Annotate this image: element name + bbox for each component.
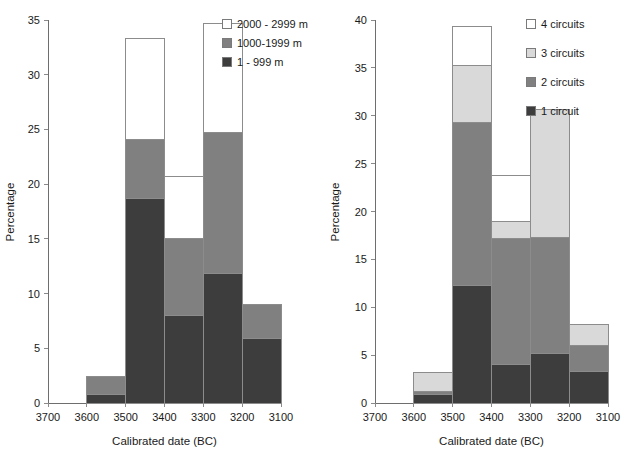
bar-segment[interactable]	[530, 353, 569, 403]
x-tick-label: 3600	[402, 411, 426, 423]
y-axis-title: Percentage	[4, 183, 16, 242]
bar-segment[interactable]	[126, 139, 165, 198]
y-tick-label: 0	[34, 397, 40, 409]
legend-label[interactable]: 3 circuits	[541, 47, 585, 59]
legend-swatch[interactable]	[526, 48, 535, 57]
legend-swatch[interactable]	[526, 77, 535, 86]
x-tick-label: 3100	[269, 411, 293, 423]
bar-segment[interactable]	[569, 346, 608, 372]
legend-label[interactable]: 1 - 999 m	[237, 56, 283, 68]
x-tick-label: 3300	[518, 411, 542, 423]
bar-segment[interactable]	[453, 122, 492, 285]
bar-segment[interactable]	[492, 238, 531, 364]
y-tick-label: 30	[28, 69, 40, 81]
bar-segment[interactable]	[569, 371, 608, 403]
y-tick-label: 25	[355, 158, 367, 170]
x-tick-label: 3700	[36, 411, 60, 423]
x-axis-title: Calibrated date (BC)	[439, 435, 544, 447]
bar-segment[interactable]	[126, 198, 165, 403]
legend-label[interactable]: 2000 - 2999 m	[237, 18, 308, 30]
x-tick-label: 3400	[152, 411, 176, 423]
y-tick-label: 40	[355, 14, 367, 26]
bar-segment[interactable]	[530, 109, 569, 237]
bar-segment[interactable]	[414, 395, 453, 403]
bar-segment[interactable]	[126, 39, 165, 140]
y-tick-label: 5	[34, 342, 40, 354]
bar-segment[interactable]	[414, 392, 453, 395]
bar-segment[interactable]	[165, 239, 204, 316]
bar-segment[interactable]	[242, 338, 281, 403]
x-tick-label: 3700	[363, 411, 387, 423]
legend-label[interactable]: 1 circuit	[541, 105, 579, 117]
legend-swatch[interactable]	[526, 106, 535, 115]
y-tick-label: 35	[355, 62, 367, 74]
bar-segment[interactable]	[203, 133, 242, 274]
y-tick-label: 35	[28, 14, 40, 26]
bar-segment[interactable]	[530, 237, 569, 353]
bar-segment[interactable]	[453, 285, 492, 403]
bar-segment[interactable]	[87, 377, 126, 395]
y-tick-label: 15	[355, 253, 367, 265]
bar-segment[interactable]	[569, 324, 608, 345]
y-axis-title: Percentage	[329, 183, 341, 242]
x-tick-label: 3300	[191, 411, 215, 423]
bar-segment[interactable]	[492, 221, 531, 238]
bar-segment[interactable]	[165, 315, 204, 403]
x-tick-label: 3100	[596, 411, 620, 423]
y-tick-label: 10	[355, 301, 367, 313]
legend-swatch[interactable]	[222, 38, 231, 47]
y-tick-label: 30	[355, 110, 367, 122]
chart-panel-left: 0510152025303537003600350034003300320031…	[0, 0, 313, 461]
y-tick-label: 20	[28, 178, 40, 190]
x-tick-label: 3200	[557, 411, 581, 423]
x-tick-label: 3500	[113, 411, 137, 423]
legend-label[interactable]: 2 circuits	[541, 76, 585, 88]
bar-segment[interactable]	[453, 65, 492, 122]
bar-segment[interactable]	[492, 175, 531, 221]
figure-container: 0510152025303537003600350034003300320031…	[0, 0, 626, 461]
y-tick-label: 15	[28, 233, 40, 245]
bar-segment[interactable]	[492, 365, 531, 403]
chart-panel-right: 0510152025303540370036003500340033003200…	[313, 0, 626, 461]
legend-label[interactable]: 1000-1999 m	[237, 37, 302, 49]
left-chart-svg: 0510152025303537003600350034003300320031…	[0, 0, 313, 461]
legend-swatch[interactable]	[526, 19, 535, 28]
x-tick-label: 3600	[75, 411, 99, 423]
y-tick-label: 10	[28, 288, 40, 300]
bar-segment[interactable]	[203, 274, 242, 403]
right-chart-svg: 0510152025303540370036003500340033003200…	[313, 0, 626, 461]
y-tick-label: 5	[361, 349, 367, 361]
x-tick-label: 3200	[230, 411, 254, 423]
bar-segment[interactable]	[165, 176, 204, 238]
legend-label[interactable]: 4 circuits	[541, 18, 585, 30]
y-tick-label: 20	[355, 206, 367, 218]
x-axis-title: Calibrated date (BC)	[112, 435, 217, 447]
bar-segment[interactable]	[87, 394, 126, 403]
y-tick-label: 25	[28, 123, 40, 135]
bar-segment[interactable]	[453, 27, 492, 65]
x-tick-label: 3400	[479, 411, 503, 423]
bar-segment[interactable]	[242, 305, 281, 339]
legend-swatch[interactable]	[222, 19, 231, 28]
x-tick-label: 3500	[440, 411, 464, 423]
y-tick-label: 0	[361, 397, 367, 409]
bar-segment[interactable]	[414, 372, 453, 391]
legend-swatch[interactable]	[222, 57, 231, 66]
